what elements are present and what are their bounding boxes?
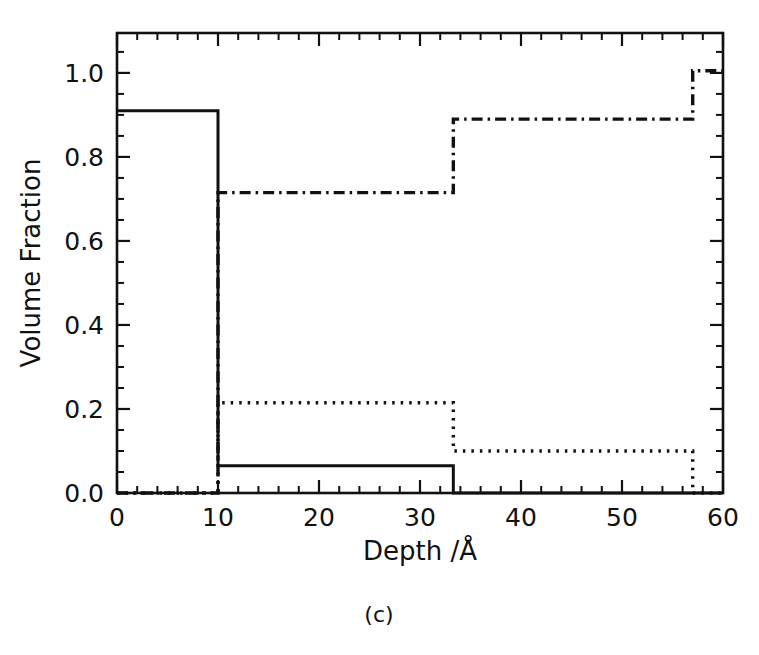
x-tick-label: 30 [404, 503, 436, 532]
x-tick-label: 60 [707, 503, 739, 532]
x-axis-title: Depth /Å [363, 535, 477, 566]
y-tick-label: 0.4 [64, 311, 104, 340]
y-tick-label: 1.0 [64, 59, 104, 88]
y-axis-title: Volume Fraction [16, 159, 46, 368]
y-axis-ticks-left [117, 52, 130, 493]
y-tick-label: 0.2 [64, 395, 104, 424]
figure-caption: (c) [364, 602, 393, 627]
x-tick-label: 20 [303, 503, 335, 532]
figure-container: 0102030405060 0.00.20.40.60.81.0 Depth /… [0, 0, 759, 655]
x-axis-ticks-bottom [117, 480, 723, 493]
series-dash-dot [117, 71, 723, 493]
y-axis-ticks-right [710, 52, 723, 493]
x-tick-label: 0 [109, 503, 125, 532]
series-dotted [117, 403, 723, 493]
volume-fraction-depth-chart: 0102030405060 0.00.20.40.60.81.0 Depth /… [0, 0, 759, 655]
data-series-group [117, 71, 723, 493]
y-tick-label: 0.8 [64, 143, 104, 172]
plot-frame [117, 33, 723, 493]
x-tick-label: 50 [606, 503, 638, 532]
x-axis-tick-labels: 0102030405060 [109, 503, 739, 532]
x-axis-ticks-top [117, 33, 723, 46]
y-axis-tick-labels: 0.00.20.40.60.81.0 [64, 59, 104, 508]
x-tick-label: 40 [505, 503, 537, 532]
y-tick-label: 0.0 [64, 479, 104, 508]
series-solid [117, 111, 723, 493]
y-tick-label: 0.6 [64, 227, 104, 256]
x-tick-label: 10 [202, 503, 234, 532]
